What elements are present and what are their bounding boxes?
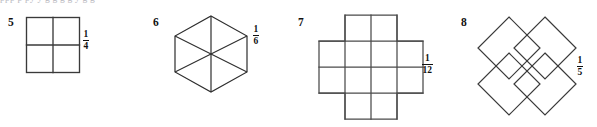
fraction-numerator: 1: [83, 30, 89, 40]
fraction-denominator: 6: [253, 37, 259, 47]
fraction-label-5: 1 4: [83, 30, 89, 51]
problem-6: 6 1 6: [150, 0, 295, 127]
figure-four-overlapping-diamonds: [475, 13, 579, 119]
fraction-numerator: 1: [253, 25, 259, 35]
figure-cross-of-twelve-squares: [318, 13, 428, 121]
hexagon-sixths-svg: [172, 14, 250, 94]
diamond-top-left: [478, 17, 540, 79]
fraction-denominator: 12: [422, 66, 433, 76]
fraction-numerator: 1: [577, 56, 583, 66]
problem-5: 5 1 4: [0, 0, 150, 127]
overlapping-diamonds-svg: [475, 13, 579, 119]
worksheet-figure-strip: ppp p py y g g g g y g g 5 1 4: [0, 0, 597, 127]
fraction-label-8: 1 5: [577, 56, 583, 77]
fraction-label-7: 1 12: [422, 54, 433, 75]
problem-number-6: 6: [153, 17, 159, 29]
square-quarters-svg: [25, 16, 85, 76]
fraction-label-6: 1 6: [253, 25, 259, 46]
problem-7: 7 1 12: [295, 0, 455, 127]
fraction-denominator: 5: [577, 68, 583, 78]
diamond-bottom-right: [514, 53, 576, 115]
figure-hexagon-divided-in-sixths: [172, 14, 250, 94]
problem-number-7: 7: [298, 17, 304, 29]
problem-number-8: 8: [461, 17, 467, 29]
diamond-top-right: [514, 17, 576, 79]
problem-8: 8 1 5: [455, 0, 597, 127]
fraction-numerator: 1: [422, 54, 433, 64]
diamond-bottom-left: [478, 53, 540, 115]
fraction-denominator: 4: [83, 42, 89, 52]
figure-square-divided-in-quarters: [25, 16, 85, 76]
cross-twelve-svg: [318, 13, 428, 121]
problem-number-5: 5: [8, 17, 14, 29]
